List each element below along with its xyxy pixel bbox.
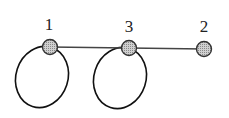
node-label-3: 3 <box>125 17 134 36</box>
node-label-1: 1 <box>45 15 54 34</box>
node-3 <box>122 41 137 56</box>
edge-3-2 <box>129 48 204 49</box>
self-loop-node-1 <box>8 39 77 114</box>
node-1 <box>43 40 58 55</box>
node-2 <box>197 42 212 57</box>
graph-svg: 1 3 2 <box>0 0 229 118</box>
edge-1-3 <box>50 47 129 48</box>
self-loop-node-3 <box>86 40 155 115</box>
node-label-2: 2 <box>200 17 209 36</box>
graph-diagram: 1 3 2 <box>0 0 229 118</box>
